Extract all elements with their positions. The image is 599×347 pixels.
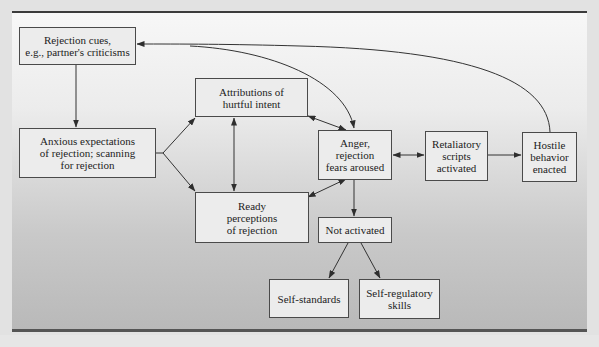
node-retaliatory-label: Retaliatory scripts activated	[432, 138, 481, 174]
node-not-activated: Not activated	[318, 217, 392, 243]
node-hostile: Hostile behavior enacted	[522, 132, 577, 182]
node-self-regulatory: Self-regulatory skills	[359, 279, 440, 319]
node-not-activated-label: Not activated	[326, 224, 385, 236]
node-self-regulatory-label: Self-regulatory skills	[366, 287, 433, 311]
node-anger-label: Anger, rejection fears aroused	[326, 137, 384, 173]
node-anxious-expectations-label: Anxious expectations of rejection; scann…	[40, 135, 135, 171]
node-anger: Anger, rejection fears aroused	[318, 130, 392, 180]
node-rejection-cues-label: Rejection cues, e.g., partner's criticis…	[25, 34, 129, 58]
figure-page: Rejection cues, e.g., partner's criticis…	[0, 0, 599, 347]
node-ready-perceptions-label: Ready perceptions of rejection	[227, 200, 278, 236]
node-attributions: Attributions of hurtful intent	[195, 78, 308, 117]
node-retaliatory: Retaliatory scripts activated	[425, 131, 488, 181]
node-attributions-label: Attributions of hurtful intent	[219, 86, 284, 110]
node-self-standards: Self-standards	[269, 279, 349, 318]
node-ready-perceptions: Ready perceptions of rejection	[195, 192, 309, 243]
node-rejection-cues: Rejection cues, e.g., partner's criticis…	[19, 27, 136, 65]
figure-title-clipped	[12, 0, 587, 8]
page-margin-bottom	[0, 335, 599, 347]
node-hostile-label: Hostile behavior enacted	[530, 139, 568, 175]
node-self-standards-label: Self-standards	[278, 293, 341, 305]
node-anxious-expectations: Anxious expectations of rejection; scann…	[19, 128, 156, 178]
